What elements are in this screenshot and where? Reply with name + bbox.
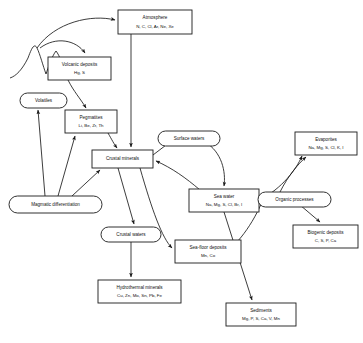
edge-magmatic-to-crustal-minerals xyxy=(72,170,100,196)
node-sea-water[interactable]: Sea waterNa, Mg, S, Cl, Br, I xyxy=(189,189,259,212)
node-sublabel-sea-floor-deposits: Mn, Co xyxy=(201,253,216,258)
node-label-crustal-waters: Crustal waters xyxy=(116,232,146,237)
node-surface-waters[interactable]: Surface waters xyxy=(158,131,220,146)
node-label-surface-waters: Surface waters xyxy=(174,136,205,141)
node-organic-processes[interactable]: Organic processes xyxy=(258,192,331,207)
node-shape-biogenic-deposits xyxy=(293,225,358,248)
node-shape-volcanic-deposits xyxy=(48,57,111,80)
node-biogenic-deposits[interactable]: Biogenic depositsC, S, P, Ca xyxy=(293,225,358,248)
node-shape-sea-floor-deposits xyxy=(175,240,241,263)
node-shape-evaporites xyxy=(295,132,357,155)
node-sublabel-sediments: Mg, P, S, Ca, V, Mn xyxy=(242,316,280,321)
node-label-volcanic-deposits: Volcanic deposits xyxy=(62,62,98,67)
node-sublabel-volcanic-deposits: Hg, S xyxy=(74,70,85,75)
edge-sea-water-to-crustal-minerals xyxy=(156,161,200,190)
node-label-evaporites: Evaporites xyxy=(315,137,337,142)
node-layer: AtmosphereN, C, Cl, Ar, Ne, XeVolcanic d… xyxy=(9,10,358,326)
node-crustal-minerals[interactable]: Crustal minerals xyxy=(92,150,153,168)
node-label-sea-floor-deposits: Sea-floor deposits xyxy=(189,245,227,250)
node-sublabel-sea-water: Na, Mg, S, Cl, Br, I xyxy=(206,202,242,207)
node-volatiles[interactable]: Volatiles xyxy=(20,93,67,108)
edge-surface-waters-to-sea-water xyxy=(205,142,224,186)
node-shape-sediments xyxy=(226,303,296,326)
node-shape-hydrothermal-minerals xyxy=(98,280,181,303)
node-label-crustal-minerals: Crustal minerals xyxy=(106,156,140,161)
node-evaporites[interactable]: EvaporitesNa, Mg, S, Cl, K, I xyxy=(295,132,357,155)
node-magmatic-differentiation[interactable]: Magmatic differentiation xyxy=(9,196,102,213)
edge-organic-processes-to-evaporites xyxy=(280,157,306,192)
node-label-volatiles: Volatiles xyxy=(35,98,53,103)
edge-pegmatites-to-crustal-minerals xyxy=(108,133,117,148)
node-atmosphere[interactable]: AtmosphereN, C, Cl, Ar, Ne, Xe xyxy=(118,10,192,34)
node-label-sediments: Sediments xyxy=(250,308,272,313)
node-label-hydrothermal-minerals: Hydrothermal minerals xyxy=(116,285,163,290)
node-shape-atmosphere xyxy=(118,10,192,34)
node-hydrothermal-minerals[interactable]: Hydrothermal mineralsCu, Zn, Mo, Sn, Pb,… xyxy=(98,280,181,303)
edge-organic-processes-to-biogenic-deposits xyxy=(300,205,320,222)
edge-volcanic-deposits-to-pegmatites xyxy=(68,80,86,108)
node-label-magmatic-differentiation: Magmatic differentiation xyxy=(31,202,80,207)
node-sea-floor-deposits[interactable]: Sea-floor depositsMn, Co xyxy=(175,240,241,263)
edge-magmatic-to-volatiles xyxy=(38,110,45,196)
node-label-organic-processes: Organic processes xyxy=(275,197,314,202)
edge-volcano-to-atmosphere xyxy=(37,18,115,48)
node-sublabel-hydrothermal-minerals: Cu, Zn, Mo, Sn, Pb, Fe xyxy=(117,293,162,298)
node-volcanic-deposits[interactable]: Volcanic depositsHg, S xyxy=(48,57,111,80)
node-label-biogenic-deposits: Biogenic deposits xyxy=(307,230,344,235)
node-sublabel-atmosphere: N, C, Cl, Ar, Ne, Xe xyxy=(136,24,174,29)
node-sublabel-evaporites: Na, Mg, S, Cl, K, I xyxy=(308,145,343,150)
diagram-canvas: AtmosphereN, C, Cl, Ar, Ne, XeVolcanic d… xyxy=(0,0,363,343)
node-shape-sea-water xyxy=(189,189,259,212)
node-label-atmosphere: Atmosphere xyxy=(143,15,168,20)
node-pegmatites[interactable]: PegmatitesLi, Be, Zr, Th xyxy=(65,110,117,133)
node-shape-pegmatites xyxy=(65,110,117,133)
edge-volcano-to-volcanic-deposits xyxy=(40,41,85,53)
node-label-pegmatites: Pegmatites xyxy=(80,115,104,120)
edge-magmatic-to-pegmatites xyxy=(58,136,75,196)
node-sediments[interactable]: SedimentsMg, P, S, Ca, V, Mn xyxy=(226,303,296,326)
node-sublabel-biogenic-deposits: C, S, P, Ca xyxy=(315,238,337,243)
node-sublabel-pegmatites: Li, Be, Zr, Th xyxy=(78,123,104,128)
edge-crustal-minerals-to-crustal-waters xyxy=(118,168,134,224)
node-crustal-waters[interactable]: Crustal waters xyxy=(101,227,161,242)
node-label-sea-water: Sea water xyxy=(214,194,235,199)
geochemical-cycle-diagram: AtmosphereN, C, Cl, Ar, Ne, XeVolcanic d… xyxy=(0,0,363,343)
